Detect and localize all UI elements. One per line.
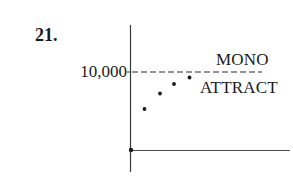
data-point xyxy=(143,107,147,111)
data-point xyxy=(158,92,162,96)
attract-series xyxy=(129,76,192,153)
data-point xyxy=(129,148,133,152)
chart-plot-area xyxy=(0,0,293,176)
data-point xyxy=(188,76,192,80)
data-point xyxy=(172,82,176,86)
